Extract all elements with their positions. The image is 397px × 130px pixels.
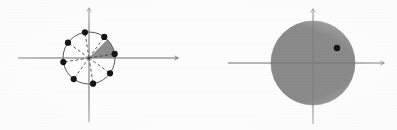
sample-point [107, 70, 113, 76]
right-panel-canvas [198, 0, 397, 130]
sample-point [82, 29, 88, 35]
spoke-8 [89, 58, 110, 73]
right-panel-sample-points [334, 45, 340, 51]
left-panel-canvas [0, 0, 198, 130]
sample-point [71, 76, 77, 82]
sample-point [60, 59, 66, 65]
sample-point [65, 40, 71, 46]
sample-point [334, 45, 340, 51]
spoke-6 [74, 58, 89, 79]
spoke-5 [64, 58, 89, 62]
sample-point [90, 81, 96, 87]
spoke-7 [89, 58, 93, 83]
spoke-3 [85, 33, 89, 58]
figure-root [0, 0, 397, 130]
left-panel [0, 0, 198, 130]
sample-point [101, 34, 107, 40]
spoke-4 [68, 43, 89, 58]
shaded-sector-wedge [89, 40, 115, 58]
sample-point [112, 51, 118, 57]
right-panel [198, 0, 397, 130]
